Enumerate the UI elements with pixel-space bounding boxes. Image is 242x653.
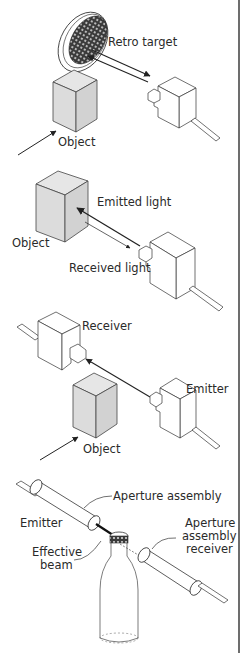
label-retro-target: Retro target [108,35,178,49]
bottle [100,532,138,643]
retro-sensor [148,77,220,141]
page-edge-border [238,0,240,653]
label-receiver-2: assembly [182,529,237,543]
leader-receiver [152,538,176,549]
label-object: Object [58,135,96,149]
label-effective-beam-2: beam [40,558,73,572]
label-effective-beam-1: Effective [32,545,82,559]
retro-beam-out [88,56,148,82]
beam-dashed [120,544,140,556]
panel-retro-reflective: Retro target Object [18,3,220,155]
label-receiver-3: receiver [186,542,233,556]
label-receiver: Receiver [82,319,132,333]
diffuse-sensor [139,232,223,311]
panel-diffuse: Emitted light Object Received light [12,171,223,311]
label-emitter: Emitter [20,516,63,530]
leader-aperture-assembly [84,496,112,508]
retro-beam-return [92,50,150,76]
label-receiver-1: Aperture [185,516,235,530]
label-emitter: Emitter [186,382,229,396]
label-object: Object [12,236,50,250]
object-box [36,171,88,242]
label-received-light: Received light [69,261,151,275]
label-emitted-light: Emitted light [97,195,172,209]
label-aperture-assembly: Aperture assembly [113,489,222,503]
object-arrow [18,131,56,155]
label-object: Object [83,442,121,456]
object-box [53,70,97,132]
object-arrow [40,437,78,460]
panel-through-beam: Receiver Emitter Object [17,312,229,460]
panel-aperture-assembly: Aperture assembly Emitter Effective beam… [16,478,237,643]
object-box [73,373,117,438]
receiver-sensor [17,312,86,370]
sensing-modes-diagram: Retro target Object Emitted light Object… [0,0,242,653]
